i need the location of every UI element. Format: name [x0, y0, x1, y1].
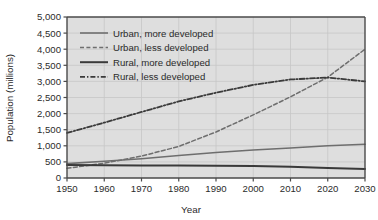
x-tick-label: 1960 [94, 183, 115, 194]
x-tick-label: 2030 [354, 183, 375, 194]
x-tick-label: 1990 [205, 183, 226, 194]
y-tick-label: 3,500 [37, 60, 61, 71]
x-axis-tick-labels: 195019601970198019902000201020202030 [56, 183, 375, 194]
y-tick-label: 2,500 [37, 92, 61, 103]
legend-label-0: Urban, more developed [113, 28, 213, 39]
legend-label-2: Rural, more developed [113, 57, 210, 68]
y-tick-label: 5,000 [37, 11, 61, 22]
y-tick-label: 500 [45, 156, 61, 167]
chart-container: 05001,0001,5002,0002,5003,0003,5004,0004… [0, 0, 378, 220]
y-tick-label: 3,000 [37, 76, 61, 87]
population-line-chart: 05001,0001,5002,0002,5003,0003,5004,0004… [0, 0, 378, 220]
x-tick-label: 2020 [317, 183, 338, 194]
x-axis-title: Year [181, 204, 202, 215]
x-tick-label: 1980 [168, 183, 189, 194]
x-tick-label: 2000 [243, 183, 264, 194]
x-tick-label: 1950 [56, 183, 77, 194]
legend-label-3: Rural, less developed [113, 71, 205, 82]
y-tick-label: 0 [56, 172, 61, 183]
y-tick-label: 1,500 [37, 124, 61, 135]
y-tick-label: 4,000 [37, 44, 61, 55]
y-tick-label: 4,500 [37, 28, 61, 39]
y-tick-label: 1,000 [37, 140, 61, 151]
x-tick-label: 1970 [131, 183, 152, 194]
y-axis-title: Population (millions) [4, 54, 15, 142]
x-tick-label: 2010 [280, 183, 301, 194]
legend-label-1: Urban, less developed [113, 42, 208, 53]
y-tick-label: 2,000 [37, 108, 61, 119]
